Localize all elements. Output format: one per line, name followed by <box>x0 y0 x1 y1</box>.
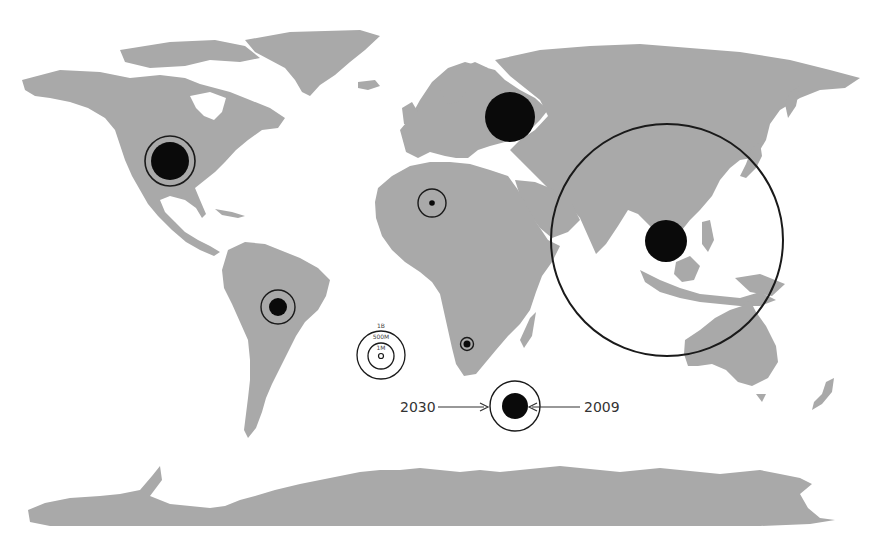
south-america <box>222 242 330 438</box>
dot-2009-europe <box>485 92 535 142</box>
legend-label-2009: 2009 <box>584 399 620 415</box>
dot-2009-south-america <box>269 298 287 316</box>
antarctica <box>28 466 835 526</box>
caribbean-islands <box>215 209 245 218</box>
year-legend: 2030 2009 <box>400 381 620 431</box>
dot-2009-north-america <box>151 142 189 180</box>
dot-2009-sub-saharan-africa <box>464 341 471 348</box>
scale-legend: 1B 500M 1M <box>357 322 405 379</box>
world-map: 1B 500M 1M 2030 2009 <box>0 0 885 539</box>
new-zealand <box>812 378 834 410</box>
legend-label-1b: 1B <box>377 322 385 329</box>
iceland <box>358 80 380 90</box>
tasmania <box>756 394 766 402</box>
legend-label-1m: 1M <box>377 344 386 351</box>
dot-2009-asia-pacific <box>645 220 687 262</box>
legend-ring-1m <box>379 354 384 359</box>
dot-2009-north-africa <box>429 200 435 206</box>
legend-label-2030: 2030 <box>400 399 436 415</box>
legend-label-500m: 500M <box>373 333 390 340</box>
legend-dot-2009 <box>502 393 528 419</box>
arctic-islands <box>120 40 260 68</box>
